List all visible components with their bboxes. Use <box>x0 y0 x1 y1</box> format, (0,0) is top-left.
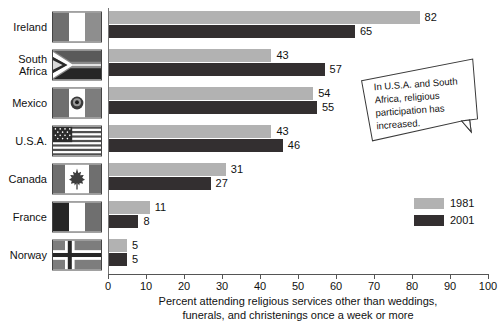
country-label: Ireland <box>0 21 47 33</box>
x-tick <box>184 274 185 279</box>
country-label-line2: Africa <box>0 65 47 77</box>
country-label: France <box>0 211 47 223</box>
bar-value-label: 65 <box>360 25 372 38</box>
bar-value-label: 11 <box>155 201 166 214</box>
legend-swatch <box>414 198 444 209</box>
annotation-callout: In U.S.A. and South Africa, religious pa… <box>358 57 485 150</box>
chart-row: Norway55 <box>0 236 496 274</box>
bar-1981 <box>108 201 150 214</box>
x-tick <box>450 274 451 279</box>
x-tick <box>222 274 223 279</box>
flag-canada-icon <box>52 164 102 195</box>
legend-item: 1981 <box>414 196 492 210</box>
bar-2001 <box>108 253 127 266</box>
x-tick-label: 50 <box>283 280 313 292</box>
country-label: Canada <box>0 173 47 185</box>
country-label: Norway <box>0 249 47 261</box>
country-label: SouthAfrica <box>0 53 47 77</box>
x-tick-label: 10 <box>131 280 161 292</box>
bar-value-label: 46 <box>288 139 300 152</box>
country-label-line1: Norway <box>10 249 47 261</box>
x-axis-title: Percent attending religious services oth… <box>108 294 488 322</box>
flag-france-icon <box>52 202 102 233</box>
x-tick-label: 20 <box>169 280 199 292</box>
x-tick-label: 70 <box>359 280 389 292</box>
flag-usa-icon <box>52 126 102 157</box>
country-label-line1: Mexico <box>12 97 47 109</box>
bar-2001 <box>108 25 355 38</box>
y-axis-line <box>108 8 109 274</box>
flag-norway-icon <box>52 240 102 271</box>
x-tick <box>336 274 337 279</box>
x-tick-label: 30 <box>207 280 237 292</box>
chart-row: Ireland8265 <box>0 8 496 46</box>
x-tick-label: 0 <box>93 280 123 292</box>
bar-2001 <box>108 177 211 190</box>
x-tick <box>298 274 299 279</box>
country-label-line1: South <box>18 53 47 65</box>
bar-value-label: 8 <box>143 215 149 228</box>
country-label-line1: U.S.A. <box>15 135 47 147</box>
x-tick <box>146 274 147 279</box>
bar-value-label: 54 <box>318 87 330 100</box>
legend: 19812001 <box>414 196 492 230</box>
country-label-line1: Ireland <box>13 21 47 33</box>
bar-value-label: 43 <box>276 125 288 138</box>
bar-1981 <box>108 11 420 24</box>
legend-swatch <box>414 215 444 226</box>
x-tick <box>374 274 375 279</box>
x-tick <box>488 274 489 279</box>
bar-2001 <box>108 101 317 114</box>
legend-label: 2001 <box>450 214 474 226</box>
flag-ireland-icon <box>52 12 102 43</box>
x-tick <box>260 274 261 279</box>
annotation-text: In U.S.A. and South Africa, religious pa… <box>373 74 472 133</box>
bar-value-label: 5 <box>132 239 138 252</box>
x-tick-label: 40 <box>245 280 275 292</box>
country-label: Mexico <box>0 97 47 109</box>
flag-mexico-icon <box>52 88 102 119</box>
bar-value-label: 57 <box>330 63 342 76</box>
country-label-line1: France <box>13 211 47 223</box>
bar-value-label: 5 <box>132 253 138 266</box>
bar-1981 <box>108 163 226 176</box>
bar-1981 <box>108 87 313 100</box>
x-tick-label: 100 <box>473 280 502 292</box>
bar-2001 <box>108 215 138 228</box>
x-tick <box>412 274 413 279</box>
x-axis-title-line1: Percent attending religious services oth… <box>108 294 488 308</box>
country-label: U.S.A. <box>0 135 47 147</box>
bar-1981 <box>108 239 127 252</box>
bar-2001 <box>108 63 325 76</box>
x-tick-label: 80 <box>397 280 427 292</box>
x-tick-label: 60 <box>321 280 351 292</box>
bar-value-label: 27 <box>216 177 228 190</box>
bar-value-label: 43 <box>276 49 288 62</box>
country-label-line1: Canada <box>8 173 47 185</box>
bar-1981 <box>108 125 271 138</box>
legend-item: 2001 <box>414 213 492 227</box>
x-tick <box>108 274 109 279</box>
bar-value-label: 82 <box>425 11 437 24</box>
legend-label: 1981 <box>450 197 474 209</box>
bar-1981 <box>108 49 271 62</box>
bar-value-label: 55 <box>322 101 334 114</box>
x-tick-label: 90 <box>435 280 465 292</box>
bar-2001 <box>108 139 283 152</box>
flag-south-africa-icon <box>52 50 102 81</box>
x-axis-title-line2: funerals, and christenings once a week o… <box>108 308 488 322</box>
bar-value-label: 31 <box>231 163 243 176</box>
chart-row: Canada3127 <box>0 160 496 198</box>
